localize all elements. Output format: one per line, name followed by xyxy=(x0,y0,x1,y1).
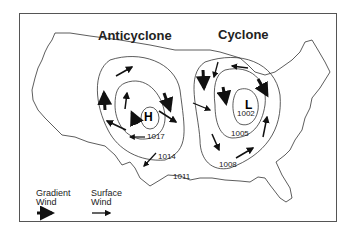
anticyclone-title: Anticyclone xyxy=(98,28,172,43)
isobar-label-1014: 1014 xyxy=(158,152,176,161)
isobar-1011 xyxy=(97,57,184,161)
isobar-label-1011: 1011 xyxy=(173,172,190,181)
legend-gradient-line2: Wind xyxy=(36,198,71,207)
isobar-1014 xyxy=(115,81,165,139)
isobar-label-1008: 1008 xyxy=(219,160,237,169)
high-pressure-center: H xyxy=(144,110,153,124)
isobar-1005 xyxy=(214,69,265,138)
legend-surface-line2: Wind xyxy=(91,198,122,207)
legend-gradient-wind: Gradient Wind xyxy=(36,189,71,207)
cyclone-title: Cyclone xyxy=(218,27,269,42)
legend-surface-wind: Surface Wind xyxy=(91,189,122,207)
isobar-label-1002: 1002 xyxy=(237,109,255,118)
isobar-label-1017: 1017 xyxy=(147,132,165,141)
isobar-label-1005: 1005 xyxy=(231,129,249,138)
